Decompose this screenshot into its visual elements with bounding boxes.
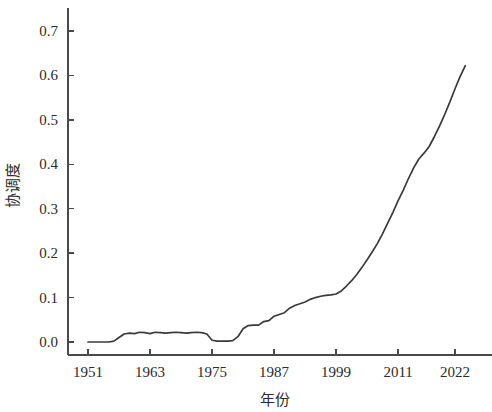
x-tick-label: 2022 <box>440 364 470 380</box>
x-tick-label: 1987 <box>259 364 290 380</box>
y-tick-label: 0.4 <box>39 156 58 172</box>
x-axis-ticks: 1951196319751987199920112022 <box>73 349 470 380</box>
x-tick-label: 1963 <box>135 364 165 380</box>
x-tick-label: 1975 <box>197 364 227 380</box>
y-tick-label: 0.1 <box>39 290 58 306</box>
plot-area: 协调度 年份 0.00.10.20.30.40.50.60.7 19511963… <box>0 0 492 412</box>
x-axis-title: 年份 <box>260 391 290 409</box>
y-tick-label: 0.2 <box>39 245 58 261</box>
x-tick-label: 1999 <box>321 364 351 380</box>
x-tick-label: 2011 <box>383 364 412 380</box>
coordination-degree-line-chart: 协调度 年份 0.00.10.20.30.40.50.60.7 19511963… <box>0 0 492 412</box>
y-axis-ticks: 0.00.10.20.30.40.50.60.7 <box>39 23 74 350</box>
y-tick-label: 0.0 <box>39 334 58 350</box>
data-series-line <box>88 66 465 342</box>
y-tick-label: 0.3 <box>39 201 58 217</box>
y-tick-label: 0.7 <box>39 23 58 39</box>
y-axis-title: 协调度 <box>4 163 22 208</box>
x-tick-label: 1951 <box>73 364 103 380</box>
y-tick-label: 0.5 <box>39 112 58 128</box>
y-tick-label: 0.6 <box>39 67 58 83</box>
